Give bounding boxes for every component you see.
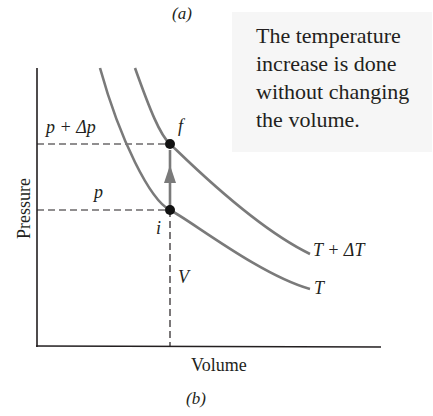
y-axis-label: Pressure: [14, 169, 35, 249]
caption-b: (b): [186, 389, 206, 409]
label-i: i: [156, 218, 161, 239]
arrow-up-icon: [164, 165, 176, 183]
label-p: p: [94, 182, 103, 203]
pv-diagram: [0, 0, 433, 416]
x-axis-label: Volume: [191, 355, 247, 376]
label-f: f: [178, 116, 183, 137]
label-t: T: [314, 278, 324, 299]
point-i: [165, 205, 175, 215]
x-axis: [36, 346, 381, 347]
isotherm-t-plus-dt-curve: [135, 68, 310, 254]
label-v: V: [178, 267, 189, 288]
label-p-plus-dp: p + Δp: [46, 117, 96, 138]
point-f: [165, 139, 175, 149]
label-t-plus-dt: T + ΔT: [313, 240, 364, 261]
